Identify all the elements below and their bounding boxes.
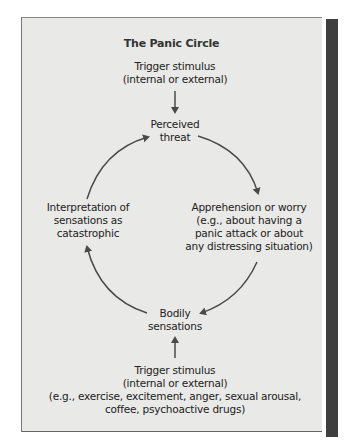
- arrows-layer: [0, 0, 352, 448]
- arrow-interpretation-to-threat: [87, 137, 148, 199]
- arrow-threat-to-apprehension: [198, 136, 258, 193]
- arrow-bodily-to-interpretation: [87, 247, 147, 313]
- arrow-apprehension-to-bodily: [201, 262, 257, 313]
